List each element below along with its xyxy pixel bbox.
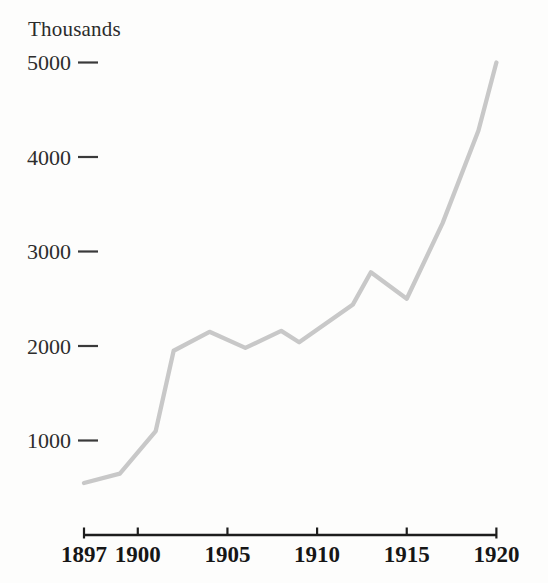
y-tick-label: 3000 bbox=[27, 239, 71, 264]
y-axis-unit-label: Thousands bbox=[28, 17, 121, 42]
x-tick-label: 1910 bbox=[294, 542, 340, 567]
x-tick-label: 1905 bbox=[204, 542, 250, 567]
x-tick-label: 1900 bbox=[115, 542, 161, 567]
y-tick-label: 4000 bbox=[27, 145, 71, 170]
data-line-series bbox=[84, 63, 496, 484]
x-tick-label: 1920 bbox=[473, 542, 519, 567]
y-tick-label: 2000 bbox=[27, 334, 71, 359]
line-chart: 1000200030004000500018971900190519101915… bbox=[0, 0, 548, 583]
chart-figure: Thousands 100020003000400050001897190019… bbox=[0, 0, 548, 583]
x-tick-label: 1915 bbox=[384, 542, 430, 567]
y-tick-label: 1000 bbox=[27, 428, 71, 453]
x-tick-label: 1897 bbox=[61, 542, 107, 567]
y-tick-label: 5000 bbox=[27, 50, 71, 75]
